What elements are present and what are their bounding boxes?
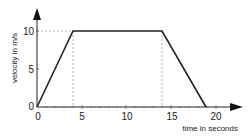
- x-tick-20: 20: [210, 111, 222, 122]
- y-tick-0: 0: [28, 101, 34, 112]
- velocity-time-chart: 0 5 10 15 20 0 5 10 time in seconds velo…: [0, 0, 250, 138]
- x-tick-5: 5: [79, 111, 85, 122]
- x-tick-0: 0: [35, 111, 41, 122]
- y-axis-label: velocity in m/s: [10, 33, 19, 83]
- velocity-line: [37, 31, 206, 107]
- y-tick-5: 5: [28, 64, 34, 75]
- x-tick-10: 10: [121, 111, 133, 122]
- x-axis-label: time in seconds: [182, 124, 238, 133]
- x-tick-15: 15: [166, 111, 178, 122]
- x-axis-arrow-icon: [230, 103, 243, 111]
- y-axis-arrow-icon: [33, 8, 41, 20]
- y-tick-10: 10: [23, 26, 35, 37]
